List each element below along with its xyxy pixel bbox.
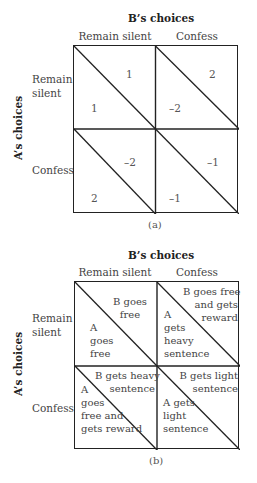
text-line: gets reward [81,422,142,435]
caption-a: (a) [148,219,162,230]
row-label-line: silent [32,86,72,100]
col-label-confess-a: Confess [156,30,238,42]
text-line: goes [81,396,142,409]
outcome-grid-b: B goes free A goes free B goes free and … [74,281,239,449]
row-label-confess-a: Confess [32,163,74,177]
text-line: free [90,347,113,360]
text-line: sentence [163,422,208,435]
text-line: goes [90,334,113,347]
row-label-line: Remain [32,72,72,86]
col-heading-a: B’s choices [128,12,194,24]
caption-b: (b) [149,455,163,466]
text-line: A gets [163,396,208,409]
row-label-line: silent [32,325,72,339]
outcome-a-cf-rs: A goes free and gets reward [81,383,142,435]
text-line: B goes free [183,285,238,298]
outcome-b-cf-cf: B gets light sentence [178,369,238,395]
row-label-remain-silent-b: Remain silent [32,311,72,339]
text-line: free [113,308,147,321]
text-line: heavy [164,334,209,347]
text-line: B gets heavy [95,369,155,382]
payoff-a-cf-cf: –1 [169,192,181,204]
payoff-a-rs-cf: –2 [169,102,181,114]
col-label-remain-silent-b: Remain silent [74,266,156,278]
payoff-b-rs-cf: 2 [209,68,216,80]
text-line: B goes [113,295,147,308]
text-line: sentence [164,347,209,360]
text-line: A [164,308,209,321]
row-heading-b: A’s choices [12,324,24,404]
text-line: gets [164,321,209,334]
row-heading-a: A’s choices [12,88,24,168]
text-line: A [90,321,113,334]
payoff-b-rs-rs: 1 [126,68,133,80]
text-line: free and [81,409,142,422]
row-label-confess-b: Confess [32,401,74,415]
col-label-confess-b: Confess [156,266,238,278]
payoff-grid-a: 1 1 2 –2 –2 2 –1 –1 [73,45,238,213]
outcome-a-cf-cf: A gets light sentence [163,396,208,435]
payoff-b-cf-cf: –1 [207,156,219,168]
outcome-a-rs-cf: A gets heavy sentence [164,308,209,360]
payoff-b-cf-rs: –2 [124,156,136,168]
outcome-a-rs-rs: A goes free [90,321,113,360]
outcome-b-rs-rs: B goes free [113,295,147,321]
payoff-a-cf-rs: 2 [91,192,98,204]
text-line: B gets light [178,369,238,382]
text-line: sentence [178,382,238,395]
row-label-remain-silent-a: Remain silent [32,72,72,100]
col-heading-b: B’s choices [128,249,194,261]
text-line: A [81,383,142,396]
row-label-line: Remain [32,311,72,325]
col-label-remain-silent-a: Remain silent [74,30,156,42]
payoff-a-rs-rs: 1 [91,102,98,114]
text-line: light [163,409,208,422]
